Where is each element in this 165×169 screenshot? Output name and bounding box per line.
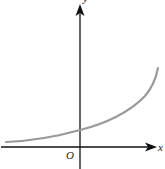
function-curve (6, 68, 158, 142)
function-graph: x y O (0, 0, 165, 169)
x-axis-label: x (157, 141, 163, 153)
origin-label: O (66, 149, 74, 161)
y-axis-label: y (82, 0, 88, 4)
